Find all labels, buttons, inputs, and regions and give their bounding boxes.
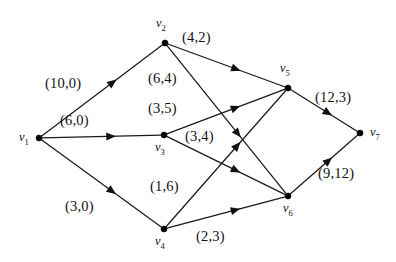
edge-label-v3-v5: (3,5) bbox=[148, 101, 177, 116]
edge-arrowhead bbox=[106, 132, 116, 140]
node-label-index: 1 bbox=[25, 137, 29, 147]
node-label-index: 6 bbox=[289, 208, 293, 218]
edge-v4-v6 bbox=[167, 197, 285, 228]
node-label-v1: v1 bbox=[19, 131, 29, 144]
edge-arrowhead bbox=[107, 80, 117, 89]
flow-network-diagram: (10,0)(6,0)(3,0)(4,2)(6,4)(3,5)(3,4)(1,6… bbox=[0, 0, 396, 262]
edge-line bbox=[167, 197, 285, 228]
edge-label-v6-v7: (9,12) bbox=[318, 166, 354, 181]
node-v7 bbox=[357, 130, 363, 136]
node-label-v5: v5 bbox=[280, 62, 290, 75]
edge-label-v1-v4: (3,0) bbox=[65, 199, 94, 214]
node-label-v3: v3 bbox=[155, 141, 165, 154]
node-label-v6: v6 bbox=[283, 202, 293, 215]
edge-v2-v5 bbox=[168, 44, 285, 87]
edge-arrowhead bbox=[322, 107, 332, 115]
edge-line bbox=[166, 90, 286, 226]
node-label-index: 5 bbox=[286, 68, 290, 78]
edge-line bbox=[167, 45, 286, 193]
edge-arrowhead bbox=[230, 207, 240, 215]
edge-label-v4-v6: (2,3) bbox=[196, 229, 225, 244]
node-v2 bbox=[162, 40, 168, 46]
node-v4 bbox=[161, 226, 167, 232]
edge-line bbox=[41, 140, 161, 227]
node-v3 bbox=[161, 132, 167, 138]
edge-line bbox=[168, 44, 285, 87]
edge-v2-v6 bbox=[167, 45, 286, 193]
node-v6 bbox=[285, 193, 291, 199]
edge-v3-v6 bbox=[167, 136, 286, 194]
node-label-v4: v4 bbox=[155, 235, 165, 248]
edge-line bbox=[42, 135, 161, 138]
edge-label-v1-v2: (10,0) bbox=[45, 76, 81, 91]
edge-arrowhead bbox=[230, 64, 240, 72]
edge-arrowhead bbox=[230, 106, 240, 113]
node-v5 bbox=[285, 85, 291, 91]
edge-label-v3-v6: (3,4) bbox=[185, 129, 214, 144]
edge-label-v2-v5: (4,2) bbox=[182, 30, 211, 45]
node-label-index: 3 bbox=[161, 147, 165, 157]
edge-line bbox=[167, 136, 286, 194]
node-label-index: 2 bbox=[162, 23, 166, 33]
edge-label-v4-v5: (1,6) bbox=[150, 179, 179, 194]
edge-label-v2-v6: (6,4) bbox=[148, 71, 177, 86]
node-label-index: 7 bbox=[376, 132, 380, 142]
edge-arrowhead bbox=[106, 185, 116, 194]
edge-v1-v4 bbox=[41, 140, 161, 227]
edge-v4-v5 bbox=[166, 90, 286, 226]
node-label-index: 4 bbox=[161, 241, 165, 251]
node-label-v7: v7 bbox=[370, 126, 380, 139]
edge-arrowhead bbox=[232, 127, 241, 137]
node-v1 bbox=[36, 135, 42, 141]
edge-label-v5-v7: (12,3) bbox=[315, 90, 351, 105]
edge-label-v1-v3: (6,0) bbox=[60, 113, 89, 128]
node-label-v2: v2 bbox=[156, 17, 166, 30]
edge-v1-v3 bbox=[42, 132, 161, 140]
